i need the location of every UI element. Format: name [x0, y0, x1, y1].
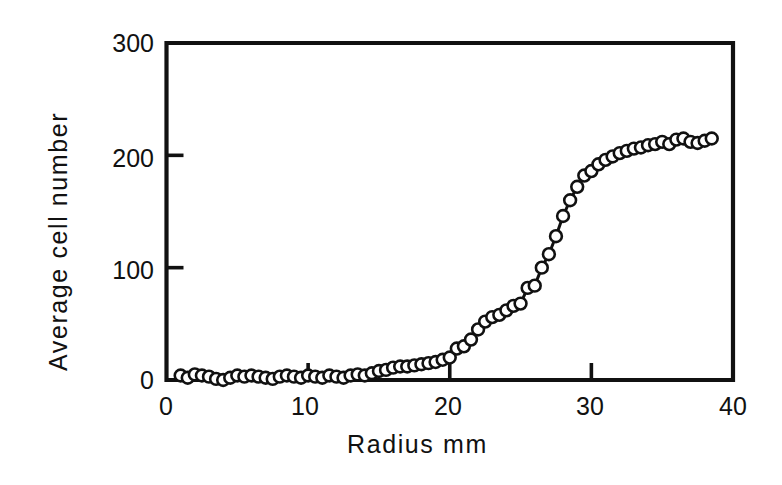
- chart-figure: Average cell number Radius mm 300 200 10…: [0, 0, 782, 485]
- data-line-series-0: [181, 138, 712, 380]
- data-markers-series-0: [175, 133, 718, 386]
- data-point-marker: [564, 194, 576, 206]
- y-tick-label-300: 300: [82, 31, 154, 56]
- data-point-marker: [571, 181, 583, 193]
- y-tick-label-100: 100: [82, 258, 154, 283]
- x-tick-label-10: 10: [283, 394, 327, 419]
- data-point-marker: [515, 298, 527, 310]
- x-tick-label-30: 30: [568, 394, 612, 419]
- y-tick-label-200: 200: [82, 146, 154, 171]
- y-tick-label-0: 0: [82, 368, 154, 393]
- y-axis-label: Average cell number: [46, 112, 71, 371]
- data-point-marker: [529, 280, 541, 292]
- y-tick-marks: [167, 155, 184, 267]
- data-point-marker: [543, 248, 555, 260]
- x-axis-label: Radius mm: [347, 432, 488, 457]
- x-tick-label-0: 0: [146, 394, 186, 419]
- data-point-marker: [557, 210, 569, 222]
- axes-frame: [167, 43, 734, 380]
- data-point-marker: [706, 133, 718, 145]
- x-tick-label-20: 20: [426, 394, 470, 419]
- plot-area: [0, 0, 782, 485]
- data-point-marker: [550, 230, 562, 242]
- x-tick-label-40: 40: [711, 394, 755, 419]
- data-point-marker: [536, 262, 548, 274]
